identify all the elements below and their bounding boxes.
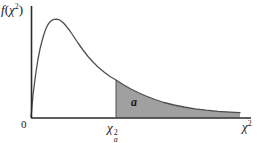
origin-label: 0 xyxy=(21,118,27,130)
x-axis-label-exponent: 2 xyxy=(248,119,252,128)
y-axis-label: f(χ2) xyxy=(1,2,23,18)
y-axis-label-close-paren: ) xyxy=(19,2,23,17)
critical-value-subscript: a xyxy=(114,136,118,143)
distribution-plot-canvas xyxy=(0,0,267,143)
shaded-area-label: a xyxy=(131,95,137,110)
chi-square-distribution-figure: f(χ2) 0 χ2a χ2 a xyxy=(0,0,267,143)
critical-value-label: χ2a xyxy=(107,120,118,143)
chi-symbol: χ xyxy=(107,120,113,135)
x-axis-label: χ2 xyxy=(242,119,252,135)
critical-value-supsub: 2a xyxy=(114,129,118,143)
